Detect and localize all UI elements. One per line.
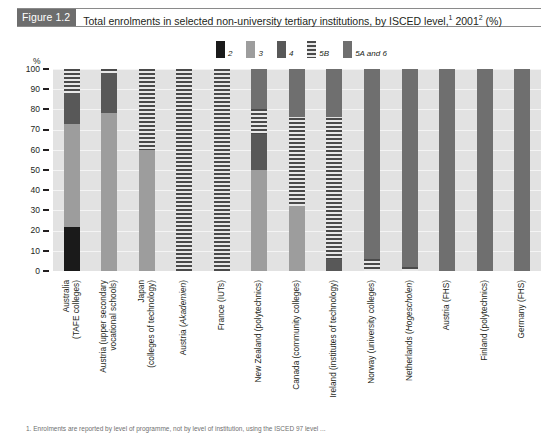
figure-title-tail: (%)	[483, 15, 502, 27]
x-axis-category-labels: Australia(TAFE colleges)Austria (upper s…	[53, 280, 541, 402]
bar-segment-5B	[214, 69, 230, 271]
stacked-bar[interactable]	[176, 69, 192, 271]
y-axis-tick-mark	[43, 108, 49, 110]
y-axis-tick-mark	[43, 149, 49, 151]
bar-slot	[316, 69, 354, 271]
x-axis-category-label: Ireland (institutes of technology)	[330, 280, 340, 398]
bar-segment-5A	[402, 69, 418, 267]
x-axis-label-slot: France (IUTs)	[203, 280, 241, 402]
y-axis-tick-mark	[43, 88, 49, 90]
bar-segment-5B	[402, 267, 418, 271]
stacked-bar[interactable]	[214, 69, 230, 271]
x-axis-category-label-line: (colleges of technology)	[147, 280, 157, 368]
bar-segment-5A	[251, 69, 267, 109]
y-axis-tick-label: 80	[31, 105, 40, 114]
bar-slot	[278, 69, 316, 271]
bar-slot	[391, 69, 429, 271]
bar-slot	[53, 69, 91, 271]
bar-segment-5A	[514, 69, 530, 271]
x-axis-category-label: Germany (FHS)	[517, 280, 527, 339]
bar-segment-5A	[477, 69, 493, 271]
x-axis-label-slot: Austria (Akademien)	[166, 280, 204, 402]
stacked-bar[interactable]	[251, 69, 267, 271]
y-axis: 1009080706050403020100	[17, 69, 49, 271]
bar-segment-4	[101, 73, 117, 113]
bar-slot	[241, 69, 279, 271]
x-axis-category-label: Austria (FHS)	[442, 280, 452, 330]
bar-segment-5B	[251, 109, 267, 133]
bar-slot	[466, 69, 504, 271]
x-axis-label-slot: Netherlands (Hogescholen)	[391, 280, 429, 402]
stacked-bar[interactable]	[139, 69, 155, 271]
y-axis-tick-mark	[43, 129, 49, 131]
x-axis-label-slot: Norway (university colleges)	[353, 280, 391, 402]
stacked-bar[interactable]	[101, 69, 117, 271]
bar-segment-5B	[64, 69, 80, 93]
bar-segment-5B	[364, 259, 380, 271]
x-axis-category-label-line: Austria (Akademien)	[180, 280, 190, 355]
y-axis-tick-mark	[43, 209, 49, 211]
stacked-bar[interactable]	[477, 69, 493, 271]
bar-segment-4	[251, 134, 267, 170]
bar-slot	[166, 69, 204, 271]
x-axis-category-label-line: Germany (FHS)	[517, 280, 527, 339]
y-axis-tick-mark	[43, 270, 49, 272]
stacked-bar[interactable]	[439, 69, 455, 271]
stacked-bar[interactable]	[402, 69, 418, 271]
bar-segment-5A	[439, 69, 455, 271]
x-axis-category-label-line: (TAFE colleges)	[72, 280, 82, 339]
x-axis-label-slot: Finland (polytechnics)	[466, 280, 504, 402]
stacked-bar[interactable]	[64, 69, 80, 271]
bar-slot	[353, 69, 391, 271]
x-axis-category-label: Austria (Akademien)	[180, 280, 190, 355]
x-axis-category-label-line: Finland (polytechnics)	[480, 280, 490, 361]
bar-slot	[428, 69, 466, 271]
y-axis-tick-label: 100	[26, 65, 40, 74]
figure-footnote: 1. Enrolments are reported by level of p…	[26, 425, 536, 433]
stacked-bar[interactable]	[514, 69, 530, 271]
x-axis-category-label-line: Ireland (institutes of technology)	[330, 280, 340, 398]
x-axis-category-label: New Zealand (polytechnics)	[255, 280, 265, 382]
bar-segment-5B	[139, 69, 155, 150]
y-axis-tick-mark	[43, 230, 49, 232]
y-axis-tick-label: 10	[31, 247, 40, 256]
y-axis-tick-label: 40	[31, 186, 40, 195]
x-axis-label-slot: Australia(TAFE colleges)	[53, 280, 91, 402]
x-axis-category-label: Finland (polytechnics)	[480, 280, 490, 361]
plot-canvas	[53, 69, 541, 271]
bar-segment-3	[289, 206, 305, 271]
y-axis-tick-label: 20	[31, 226, 40, 235]
chart-plot-area: % 1009080706050403020100	[17, 56, 541, 278]
y-axis-tick-label: 50	[31, 166, 40, 175]
y-axis-tick-mark	[43, 169, 49, 171]
bar-segment-5B	[326, 118, 342, 259]
bar-segment-2	[64, 227, 80, 271]
figure-title-year: 2001	[453, 15, 479, 27]
bar-slot	[128, 69, 166, 271]
x-axis-category-label-line: France (IUTs)	[217, 280, 227, 330]
stacked-bar[interactable]	[289, 69, 305, 271]
bar-segment-3	[251, 170, 267, 271]
y-axis-tick-label: 0	[35, 267, 40, 276]
x-axis-label-slot: Canada (community colleges)	[278, 280, 316, 402]
y-axis-tick-label: 90	[31, 85, 40, 94]
x-axis-category-label: Netherlands (Hogescholen)	[405, 280, 415, 381]
figure-header: Figure 1.2 Total enrolments in selected …	[17, 8, 541, 27]
x-axis-category-label: Japan(colleges of technology)	[137, 280, 156, 368]
bar-series-container	[53, 69, 541, 271]
x-axis-label-slot: Ireland (institutes of technology)	[316, 280, 354, 402]
stacked-bar[interactable]	[326, 69, 342, 271]
x-axis-label-slot: New Zealand (polytechnics)	[241, 280, 279, 402]
x-axis-category-label-line: Austria (FHS)	[442, 280, 452, 330]
x-axis-category-label-line: Japan	[137, 280, 147, 368]
figure-title: Total enrolments in selected non-univers…	[76, 9, 502, 26]
stacked-bar[interactable]	[364, 69, 380, 271]
bar-slot	[203, 69, 241, 271]
x-axis-category-label: Australia(TAFE colleges)	[62, 280, 81, 339]
figure-title-main: Total enrolments in selected non-univers…	[83, 15, 448, 27]
bar-segment-5B	[289, 118, 305, 207]
x-axis-label-slot: Germany (FHS)	[503, 280, 541, 402]
bar-segment-4	[326, 259, 342, 271]
bar-segment-5A	[289, 69, 305, 117]
x-axis-label-slot: Austria (upper secondaryvocational schoo…	[91, 280, 129, 402]
